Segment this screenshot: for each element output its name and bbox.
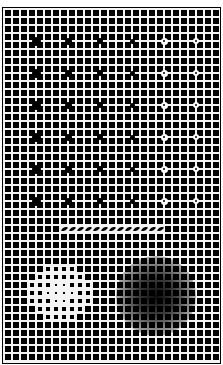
grid-square	[133, 26, 139, 32]
grid-square	[30, 283, 35, 288]
grid-square	[37, 122, 43, 128]
grid-square	[149, 274, 155, 280]
grid-square	[117, 90, 123, 96]
grid-square	[101, 186, 107, 192]
grid-square	[181, 178, 187, 184]
grid-square	[213, 186, 219, 192]
grid-square	[53, 218, 59, 224]
grid-square	[21, 234, 27, 240]
grid-square	[21, 146, 27, 152]
grid-square	[85, 210, 91, 216]
grid-square	[181, 42, 187, 48]
grid-square	[21, 338, 27, 344]
grid-square	[77, 18, 83, 24]
grid-square	[117, 234, 123, 240]
grid-square	[181, 106, 187, 112]
grid-square	[189, 226, 195, 232]
grid-square	[93, 242, 99, 248]
grid-square	[157, 298, 163, 304]
grid-square	[141, 34, 147, 40]
grid-square	[5, 346, 11, 352]
grid-square	[109, 354, 115, 360]
grid-square	[157, 146, 163, 152]
grid-square	[133, 146, 139, 152]
grid-square	[37, 354, 43, 360]
grid-square	[125, 50, 131, 56]
grid-square	[165, 154, 171, 160]
grid-square	[205, 354, 211, 360]
grid-square	[53, 330, 59, 336]
grid-square	[53, 322, 58, 327]
grid-square	[69, 330, 75, 336]
grid-square	[157, 178, 163, 184]
intersection-dot	[97, 38, 103, 44]
grid-square	[189, 122, 195, 128]
grid-square	[133, 322, 139, 328]
grid-square	[53, 346, 59, 352]
grid-square	[157, 114, 163, 120]
grid-square	[46, 275, 50, 279]
grid-square	[53, 42, 59, 48]
grid-square	[117, 314, 123, 320]
grid-square	[21, 210, 27, 216]
grid-square	[213, 114, 219, 120]
grid-square	[117, 194, 123, 200]
grid-square	[45, 154, 51, 160]
grid-square	[53, 106, 59, 112]
grid-square	[69, 90, 75, 96]
grid-square	[117, 258, 123, 264]
grid-square	[117, 338, 123, 344]
grid-square	[141, 90, 147, 96]
grid-square	[181, 10, 187, 16]
grid-square	[61, 210, 67, 216]
grid-square	[93, 114, 99, 120]
grid-square	[13, 138, 19, 144]
grid-square	[93, 282, 99, 288]
grid-square	[101, 242, 107, 248]
grid-square	[181, 194, 187, 200]
grid-square	[21, 266, 27, 272]
grid-square	[117, 218, 123, 224]
grid-square	[133, 82, 139, 88]
grid-square	[29, 50, 35, 56]
grid-square	[205, 74, 211, 80]
grid-square	[213, 242, 219, 248]
grid-square	[86, 299, 91, 304]
grid-square	[117, 154, 123, 160]
grid-square	[173, 338, 179, 344]
grid-square	[125, 186, 131, 192]
grid-square	[77, 138, 83, 144]
grid-square	[173, 90, 179, 96]
grid-square	[149, 218, 155, 224]
grid-square	[77, 34, 83, 40]
grid-square	[141, 330, 147, 336]
grid-square	[109, 314, 115, 320]
grid-square	[21, 242, 27, 248]
grid-square	[29, 90, 35, 96]
grid-square	[141, 218, 147, 224]
grid-square	[213, 178, 219, 184]
grid-square	[125, 274, 131, 280]
grid-square	[165, 250, 171, 256]
grid-square	[109, 130, 115, 136]
slanted-cell	[108, 227, 116, 231]
grid-square	[85, 130, 91, 136]
grid-square	[173, 354, 179, 360]
grid-square	[69, 26, 75, 32]
grid-square	[205, 178, 211, 184]
grid-square	[133, 154, 139, 160]
grid-square	[125, 146, 131, 152]
grid-square	[141, 258, 147, 264]
grid-square	[13, 282, 19, 288]
grid-square	[197, 242, 203, 248]
grid-square	[197, 82, 203, 88]
grid-square	[133, 50, 139, 56]
grid-square	[109, 178, 115, 184]
grid-square	[117, 298, 123, 304]
grid-square	[61, 178, 67, 184]
grid-square	[181, 98, 187, 104]
grid-square	[205, 34, 211, 40]
grid-square	[149, 18, 155, 24]
grid-square	[101, 322, 107, 328]
grid-square	[69, 186, 75, 192]
